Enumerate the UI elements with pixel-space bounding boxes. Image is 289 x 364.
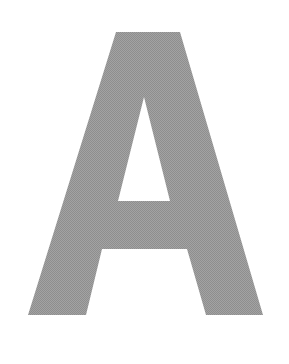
letter-canvas: A: [0, 0, 289, 364]
letter-a-glyph: [0, 0, 289, 364]
